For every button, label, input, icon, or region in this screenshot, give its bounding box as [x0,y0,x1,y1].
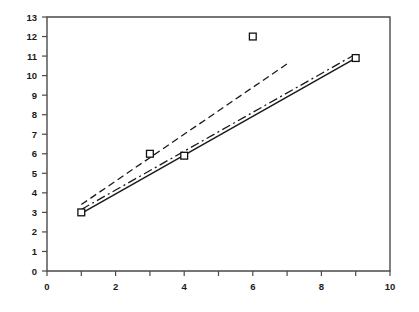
x-tick-label: 0 [44,281,49,292]
y-tick-label: 4 [32,187,38,198]
plot-background [0,0,419,312]
chart-container: 0246810 012345678910111213 [0,0,419,312]
y-tick-label: 10 [26,70,37,81]
scatter-plot: 0246810 012345678910111213 [0,0,419,312]
y-tick-label: 6 [32,148,37,159]
data-point-marker [249,33,256,40]
data-point-marker [78,209,85,216]
y-tick-label: 11 [27,51,38,62]
y-tick-label: 8 [32,109,37,120]
y-tick-label: 2 [32,226,37,237]
y-tick-label: 1 [32,246,38,257]
y-tick-label: 3 [32,207,37,218]
x-tick-label: 10 [385,281,396,292]
data-point-marker [352,55,359,62]
y-tick-label: 9 [32,90,37,101]
y-tick-label: 13 [26,12,37,23]
x-tick-label: 6 [250,281,255,292]
y-tick-label: 0 [32,266,37,277]
x-tick-label: 2 [113,281,118,292]
data-point-marker [147,150,154,157]
y-tick-label: 7 [32,129,37,140]
data-point-marker [181,152,188,159]
y-tick-label: 5 [32,168,38,179]
x-tick-label: 4 [182,281,188,292]
x-tick-label: 8 [319,281,324,292]
y-tick-label: 12 [26,31,37,42]
